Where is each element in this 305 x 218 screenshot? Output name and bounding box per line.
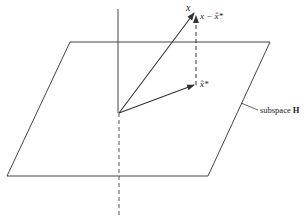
vector-x (119, 13, 194, 113)
label-subspace: subspace H (260, 105, 300, 115)
vector-xhat (119, 85, 194, 113)
label-subspace-prefix: subspace (260, 105, 293, 115)
label-xhat: x̂* (199, 79, 209, 89)
subspace-plane (7, 42, 270, 176)
label-subspace-name: H (293, 105, 300, 115)
subspace-leader-line (241, 103, 258, 110)
label-x: x (185, 2, 191, 13)
label-x-minus-xhat: x − x̂* (199, 11, 224, 21)
projection-diagram: x x − x̂* x̂* subspace H (0, 0, 305, 218)
